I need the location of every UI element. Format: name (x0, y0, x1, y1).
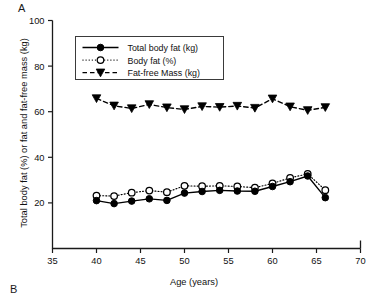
data-point (181, 190, 188, 197)
data-point (287, 178, 294, 185)
x-tick-label: 35 (47, 256, 57, 266)
legend-label: Total body fat (kg) (128, 43, 199, 53)
y-tick-label: 60 (34, 107, 44, 117)
chart-legend: Total body fat (kg)Body fat (%)Fat-free … (76, 37, 224, 80)
data-point (146, 195, 153, 202)
data-point (97, 44, 104, 51)
data-point (93, 197, 100, 204)
x-tick-label: 65 (311, 256, 321, 266)
x-axis-label: Age (years) (0, 277, 388, 287)
data-point (111, 193, 118, 200)
series-1 (93, 171, 328, 200)
x-tick-label: 45 (135, 256, 145, 266)
x-tick-label: 40 (91, 256, 101, 266)
chart-plot-area: 204060801003540455055606570Total body fa… (0, 0, 388, 302)
y-tick-label: 80 (34, 62, 44, 72)
data-point (199, 188, 206, 195)
y-axis-label: Total body fat (%) or fat and fat-free m… (19, 13, 29, 253)
y-tick-label: 20 (34, 198, 44, 208)
data-point (269, 183, 276, 190)
data-point (268, 95, 277, 103)
data-point (303, 107, 312, 115)
data-point (304, 173, 311, 180)
data-point (216, 187, 223, 194)
data-point (145, 101, 154, 109)
data-point (128, 198, 135, 205)
y-tick-label: 100 (29, 16, 45, 26)
data-point (252, 188, 259, 195)
y-tick-label: 40 (34, 153, 44, 163)
series-2 (92, 95, 329, 115)
data-point (164, 189, 171, 196)
data-point (234, 188, 241, 195)
x-tick-label: 55 (223, 256, 233, 266)
data-point (97, 57, 104, 64)
data-point (180, 106, 189, 114)
data-point (322, 187, 329, 194)
data-point (164, 197, 171, 204)
data-point (322, 194, 329, 201)
x-tick-label: 70 (355, 256, 365, 266)
data-point (92, 95, 101, 103)
data-point (111, 200, 118, 207)
legend-label: Body fat (%) (128, 56, 177, 66)
x-tick-label: 50 (179, 256, 189, 266)
data-point (146, 187, 153, 194)
x-tick-label: 60 (267, 256, 277, 266)
legend-label: Fat-free Mass (kg) (128, 68, 201, 78)
data-point (181, 183, 188, 190)
data-point (128, 189, 135, 196)
figure-panel-a: A B Total body fat (%) or fat and fat-fr… (0, 0, 388, 302)
